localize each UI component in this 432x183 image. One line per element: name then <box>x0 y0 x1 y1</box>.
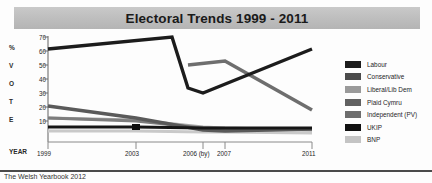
x-tick-2003: 2003 <box>125 150 139 157</box>
legend-label-liberal: Liberal/Lib Dem <box>367 86 412 93</box>
legend-item-liberal[interactable]: Liberal/Lib Dem <box>345 83 431 96</box>
legend-label-labour: Labour <box>367 61 387 68</box>
series-line-labour <box>48 37 312 93</box>
x-tick-2006-by: 2006 (by) <box>183 150 210 157</box>
legend-label-ukip: UKIP <box>367 124 382 131</box>
legend-swatch-bnp <box>345 136 361 143</box>
legend-label-bnp: BNP <box>367 136 380 143</box>
legend-swatch-independent <box>345 111 361 118</box>
x-tick-2007: 2007 <box>217 150 231 157</box>
series-line-conservative <box>188 61 312 110</box>
bottom-divider <box>0 170 432 172</box>
legend-item-plaid-cymru[interactable]: Plaid Cymru <box>345 96 431 109</box>
x-tick-2011: 2011 <box>302 150 316 157</box>
legend-label-plaid-cymru: Plaid Cymru <box>367 99 402 106</box>
source-caption: The Welsh Yearbook 2012 <box>4 173 86 182</box>
legend-item-bnp[interactable]: BNP <box>345 134 431 147</box>
legend-item-conservative[interactable]: Conservative <box>345 71 431 84</box>
legend-swatch-labour <box>345 61 361 68</box>
y-axis <box>43 36 48 142</box>
series-line-ukip <box>48 127 312 128</box>
x-tick-1999: 1999 <box>37 150 51 157</box>
legend-swatch-plaid-cymru <box>345 99 361 106</box>
legend-item-labour[interactable]: Labour <box>345 58 431 71</box>
legend-swatch-liberal <box>345 86 361 93</box>
chart-legend: Labour Conservative Liberal/Lib Dem Plai… <box>345 58 431 146</box>
legend-label-conservative: Conservative <box>367 73 404 80</box>
legend-swatch-conservative <box>345 73 361 80</box>
legend-swatch-ukip <box>345 124 361 131</box>
chart-title-band: Electoral Trends 1999 - 2011 <box>14 7 420 29</box>
chart-page: Electoral Trends 1999 - 2011 % V O T E 7… <box>0 0 432 183</box>
legend-label-independent: Independent (PV) <box>367 111 417 118</box>
ukip-marker-2003 <box>132 124 140 130</box>
x-axis <box>48 142 312 149</box>
legend-item-ukip[interactable]: UKIP <box>345 121 431 134</box>
page-title: Electoral Trends 1999 - 2011 <box>126 11 309 26</box>
legend-item-independent[interactable]: Independent (PV) <box>345 108 431 121</box>
x-axis-title: YEAR <box>9 148 27 155</box>
